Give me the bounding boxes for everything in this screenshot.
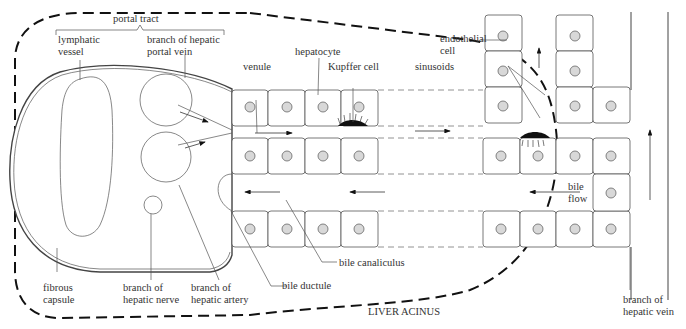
label-bile-flow-1: bile xyxy=(568,181,584,192)
label-hepatic-vein-1: branch of xyxy=(623,294,663,305)
label-endothelial-cell-1: endothelial xyxy=(440,33,487,44)
hepatocyte-row-middle-right xyxy=(483,138,630,174)
label-bile-canaliculus: bile canaliculus xyxy=(339,257,405,268)
hepatocyte-row-bottom xyxy=(232,211,378,247)
label-sinusoids: sinusoids xyxy=(415,61,454,72)
label-endothelial-cell-2: cell xyxy=(440,45,455,56)
label-bile-flow-2: flow xyxy=(568,193,588,204)
label-fibrous-capsule-2: capsule xyxy=(43,294,75,305)
hepatocyte-column-right xyxy=(556,15,630,123)
label-portal-vein-1: branch of hepatic xyxy=(147,34,220,45)
hepatocyte-row-middle xyxy=(232,138,378,174)
label-portal-vein-2: portal vein xyxy=(147,46,193,57)
label-hepatic-artery-1: branch of xyxy=(191,282,231,293)
label-liver-acinus: LIVER ACINUS xyxy=(368,306,440,317)
label-hepatic-artery-2: hepatic artery xyxy=(191,294,249,305)
hepatocyte-column-left xyxy=(485,15,522,123)
label-lymphatic-vessel-1: lymphatic xyxy=(58,34,100,45)
label-fibrous-capsule-1: fibrous xyxy=(43,282,73,293)
hepatocyte-row-bottom-right xyxy=(483,211,630,247)
label-portal-tract: portal tract xyxy=(113,13,159,24)
label-hepatic-nerve-1: branch of xyxy=(123,282,163,293)
fibrous-capsule xyxy=(10,66,232,272)
label-bile-ductule: bile ductule xyxy=(282,280,332,291)
label-kupffer-cell: Kupffer cell xyxy=(328,61,379,72)
label-hepatocyte: hepatocyte xyxy=(295,46,341,57)
label-hepatic-nerve-2: hepatic nerve xyxy=(123,294,180,305)
liver-acinus-diagram: portal tract lymphatic vessel branch of … xyxy=(0,0,686,329)
label-lymphatic-vessel-2: vessel xyxy=(58,46,84,57)
label-hepatic-vein-2: hepatic vein xyxy=(623,306,675,317)
label-venule: venule xyxy=(243,61,271,72)
